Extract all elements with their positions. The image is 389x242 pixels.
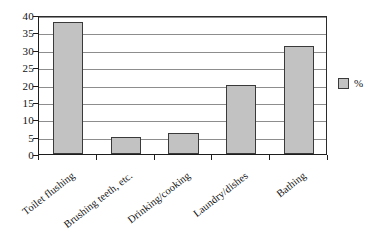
gridline bbox=[39, 17, 326, 18]
x-axis-tick-mark bbox=[211, 155, 212, 160]
bar bbox=[284, 46, 314, 154]
x-axis-tick-mark bbox=[327, 155, 328, 160]
x-axis-tick-mark bbox=[154, 155, 155, 160]
bar bbox=[168, 133, 198, 154]
plot-area bbox=[38, 16, 327, 155]
y-axis-tick-mark bbox=[33, 33, 38, 34]
y-axis-tick-mark bbox=[33, 120, 38, 121]
legend: % bbox=[338, 78, 363, 89]
legend-label: % bbox=[354, 78, 363, 89]
bar bbox=[111, 137, 141, 154]
x-axis-line bbox=[38, 154, 327, 155]
x-axis-tick-mark bbox=[96, 155, 97, 160]
bar bbox=[226, 85, 256, 155]
y-axis-line bbox=[38, 16, 39, 155]
y-axis-tick-mark bbox=[33, 51, 38, 52]
x-axis-tick-mark bbox=[38, 155, 39, 160]
y-axis-tick-mark bbox=[33, 138, 38, 139]
y-axis-tick-mark bbox=[33, 103, 38, 104]
bar bbox=[53, 22, 83, 154]
y-axis-tick-mark bbox=[33, 68, 38, 69]
y-axis-tick-mark bbox=[33, 16, 38, 17]
x-axis-tick-mark bbox=[269, 155, 270, 160]
bar-chart: 0510152025303540 Toilet flushingBrushing… bbox=[0, 0, 389, 242]
y-axis-tick-mark bbox=[33, 86, 38, 87]
legend-swatch-icon bbox=[338, 78, 349, 89]
